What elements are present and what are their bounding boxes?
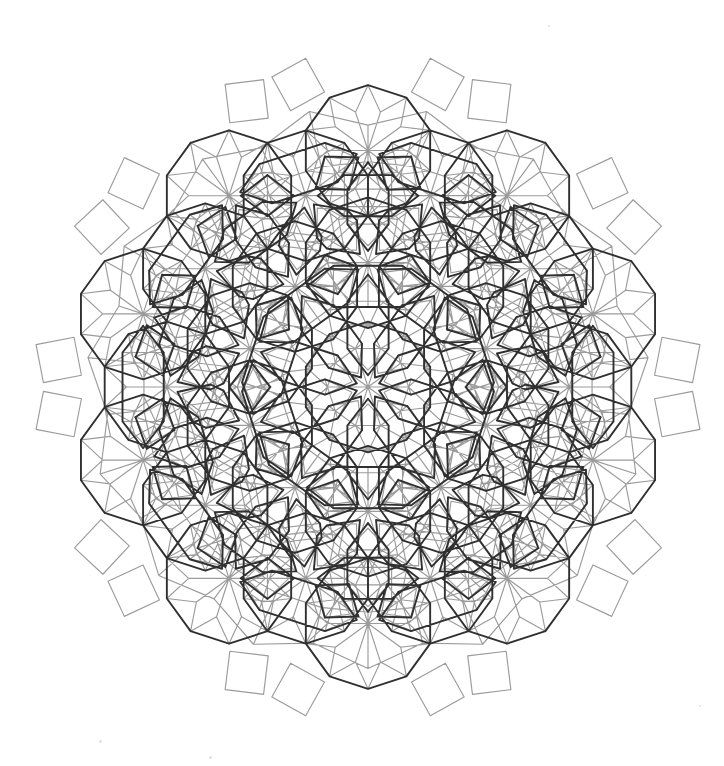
speck-artifact (209, 756, 212, 759)
tiling-canvas (0, 0, 724, 766)
speck-artifact (170, 503, 173, 506)
tiling-figure (0, 0, 724, 766)
speck-artifact (99, 740, 102, 743)
speck-artifact (699, 705, 701, 707)
speck-artifact (548, 25, 550, 27)
speck-artifact (370, 569, 375, 574)
